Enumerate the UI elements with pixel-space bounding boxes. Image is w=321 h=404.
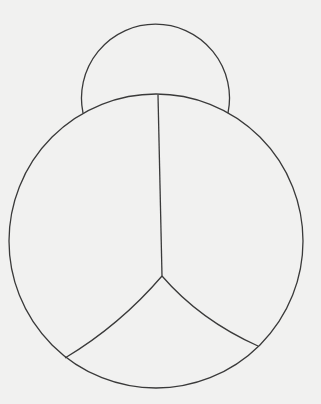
lower-segment-right-line — [162, 276, 258, 346]
wing-divider-line — [158, 95, 162, 276]
head-outline — [82, 24, 230, 113]
ladybug-drawing — [0, 0, 321, 404]
lower-segment-left-line — [65, 276, 162, 358]
body-outline — [9, 94, 303, 388]
